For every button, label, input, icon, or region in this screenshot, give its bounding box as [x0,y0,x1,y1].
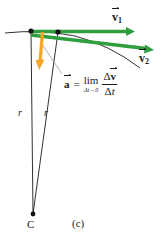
velocity-vector-2-arrow [31,35,154,53]
radius-line-left [31,31,33,214]
velocity-vector-1-arrow [31,27,135,36]
radius-label-right: r [44,108,48,118]
radius-label-left: r [18,108,22,118]
velocity-vector-2-label: v2 [139,52,149,66]
velocity-1-symbol: v [112,11,118,23]
limit-operator-stack: lim Δt→0 [84,75,99,93]
velocity-2-symbol: v [139,52,145,64]
numerator-delta: Δ [103,70,110,82]
center-label-c: C [27,219,34,230]
denominator-variable: t [112,85,115,97]
numerator-vector-v: v [110,71,116,83]
velocity-vector-1-label: v1 [112,11,122,25]
limit-operator: lim [84,75,99,86]
point-marker-2 [55,29,60,34]
denominator-delta: Δ [105,85,112,97]
center-point-marker [31,212,36,217]
equation-leader-line [42,44,62,74]
fraction-numerator: Δv [102,71,117,84]
equals-sign: = [74,78,80,90]
point-marker-1 [28,28,33,33]
circular-motion-diagram [0,0,164,239]
radius-line-right [33,32,58,214]
velocity-2-subscript: 2 [145,57,149,66]
limit-condition: Δt→0 [84,87,98,93]
acceleration-equation: a = lim Δt→0 Δv Δt [64,71,117,97]
figure-caption: (c) [72,218,84,229]
acceleration-symbol: a [64,78,70,90]
velocity-1-subscript: 1 [118,16,122,25]
circle-arc [5,32,140,68]
fraction-denominator: Δt [104,85,116,98]
delta-v-over-delta-t-fraction: Δv Δt [102,71,117,97]
figure-container: v1 v2 a = lim Δt→0 Δv Δt r r C (c) [0,0,164,239]
